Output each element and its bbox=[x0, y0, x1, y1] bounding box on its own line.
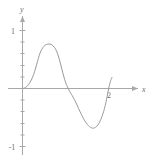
y-tick-label-positive-one: 1 bbox=[11, 27, 15, 36]
sine-curve bbox=[23, 44, 113, 128]
y-tick-label-negative-one: -1 bbox=[9, 143, 16, 152]
y-axis-arrow-icon bbox=[20, 16, 25, 22]
y-axis-label: y bbox=[19, 5, 24, 14]
x-axis-group: x bbox=[8, 85, 146, 94]
x-axis-arrow-icon bbox=[132, 86, 138, 91]
plot-canvas: x y 1 -1 2 bbox=[0, 0, 155, 164]
sine-wave-figure: x y 1 -1 2 bbox=[0, 0, 155, 164]
y-axis-group: y bbox=[19, 5, 25, 155]
x-axis-label: x bbox=[141, 85, 146, 94]
